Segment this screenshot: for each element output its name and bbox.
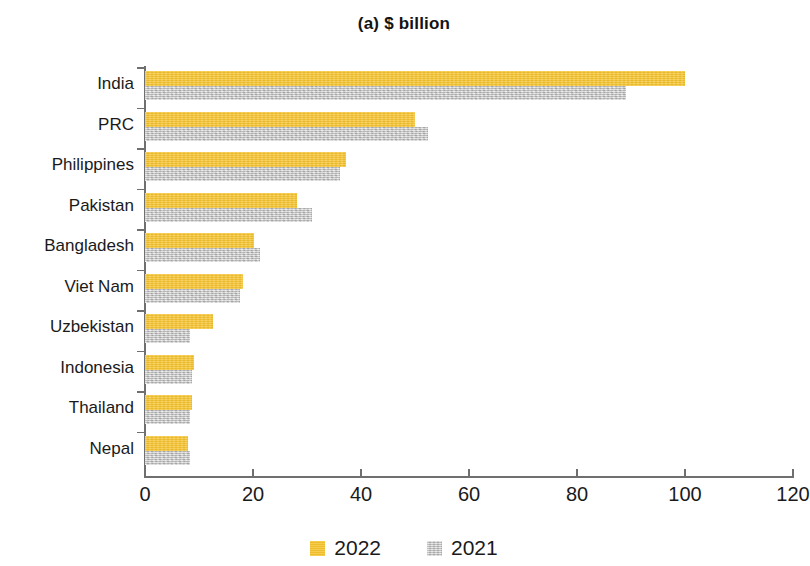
x-tick-80 <box>576 469 578 477</box>
bar-2022-philippines <box>145 152 346 167</box>
y-tick-india <box>137 67 145 69</box>
chart-legend: 20222021 <box>0 536 808 560</box>
bar-2022-pakistan <box>145 193 297 208</box>
y-tick-uzbekistan <box>137 310 145 312</box>
x-axis-label-120: 120 <box>776 483 809 506</box>
y-axis-label-thailand: Thailand <box>4 398 134 418</box>
legend-label-2022: 2022 <box>334 536 381 560</box>
x-tick-40 <box>360 469 362 477</box>
bar-2022-viet-nam <box>145 274 243 289</box>
y-axis-labels: IndiaPRCPhilippinesPakistanBangladeshVie… <box>0 0 134 566</box>
y-tick-nepal <box>137 432 145 434</box>
x-axis-label-0: 0 <box>139 483 150 506</box>
bar-2022-thailand <box>145 395 192 410</box>
y-tick-indonesia <box>137 351 145 353</box>
bar-2021-prc <box>145 127 428 141</box>
y-axis-label-bangladesh: Bangladesh <box>4 236 134 256</box>
legend-swatch-2021 <box>427 541 442 556</box>
bar-2021-viet-nam <box>145 289 240 303</box>
bar-2021-nepal <box>145 451 190 465</box>
legend-item-2022[interactable]: 2022 <box>310 536 381 560</box>
bar-2022-india <box>145 71 685 86</box>
bar-2021-philippines <box>145 167 340 181</box>
legend-item-2021[interactable]: 2021 <box>427 536 498 560</box>
y-axis-label-uzbekistan: Uzbekistan <box>4 317 134 337</box>
x-axis-label-100: 100 <box>668 483 701 506</box>
x-tick-60 <box>468 469 470 477</box>
x-tick-100 <box>684 469 686 477</box>
y-tick-pakistan <box>137 189 145 191</box>
y-axis-label-pakistan: Pakistan <box>4 196 134 216</box>
y-tick-viet-nam <box>137 270 145 272</box>
x-tick-120 <box>792 469 794 477</box>
y-axis-label-nepal: Nepal <box>4 439 134 459</box>
y-tick-prc <box>137 108 145 110</box>
bar-2022-nepal <box>145 436 188 451</box>
bar-2021-thailand <box>145 410 190 424</box>
y-axis-label-indonesia: Indonesia <box>4 358 134 378</box>
bar-2022-prc <box>145 112 415 127</box>
bar-2022-bangladesh <box>145 233 254 248</box>
y-tick-bangladesh <box>137 229 145 231</box>
y-tick-philippines <box>137 148 145 150</box>
plot-area <box>145 66 793 476</box>
bar-2021-uzbekistan <box>145 329 190 343</box>
bar-2021-indonesia <box>145 370 192 384</box>
y-axis-label-viet-nam: Viet Nam <box>4 277 134 297</box>
y-axis-label-philippines: Philippines <box>4 155 134 175</box>
x-axis-label-60: 60 <box>458 483 480 506</box>
y-tick-thailand <box>137 391 145 393</box>
x-tick-20 <box>252 469 254 477</box>
legend-label-2021: 2021 <box>451 536 498 560</box>
bar-2022-indonesia <box>145 355 194 370</box>
bar-2021-india <box>145 86 626 100</box>
bar-2022-uzbekistan <box>145 314 213 329</box>
x-tick-0 <box>144 469 146 477</box>
x-axis-label-40: 40 <box>350 483 372 506</box>
x-axis-label-80: 80 <box>566 483 588 506</box>
y-axis-label-prc: PRC <box>4 115 134 135</box>
x-axis-label-20: 20 <box>242 483 264 506</box>
bar-2021-pakistan <box>145 208 312 222</box>
legend-swatch-2022 <box>310 541 325 556</box>
bar-2021-bangladesh <box>145 248 260 262</box>
y-axis-label-india: India <box>4 74 134 94</box>
